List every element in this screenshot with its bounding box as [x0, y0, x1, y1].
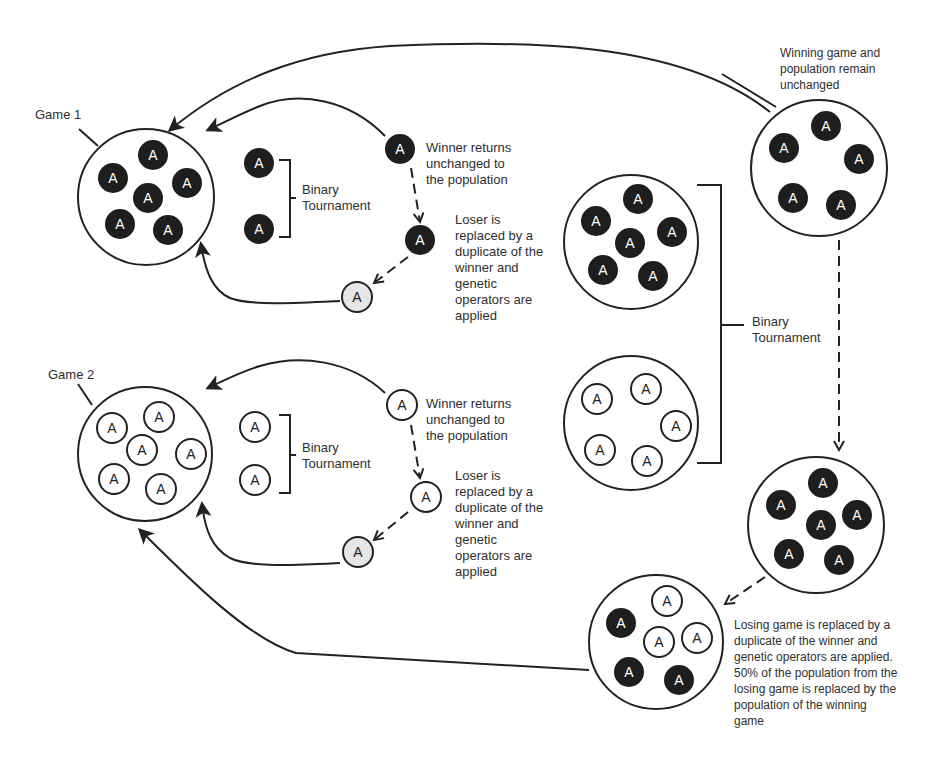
arrow-game1-winner-return: [208, 99, 385, 136]
game2-label: Game 2: [48, 367, 94, 383]
svg-text:A: A: [654, 634, 664, 650]
svg-text:A: A: [788, 190, 798, 206]
game2-tournament-label: Binary Tournament: [302, 440, 371, 472]
winning-game-note: Winning game and population remain uncha…: [780, 45, 880, 93]
arrow-game2-winner-return: [208, 360, 385, 393]
svg-text:A: A: [836, 197, 846, 213]
svg-text:A: A: [595, 442, 605, 458]
svg-text:A: A: [115, 216, 125, 232]
game1-label: Game 1: [35, 107, 81, 123]
losing-game-mixed-population: A A A A A A: [589, 575, 723, 709]
game1-tournament-label: Binary Tournament: [302, 182, 371, 214]
arrow-game2-loser-to-new: [374, 512, 408, 540]
svg-text:A: A: [352, 289, 362, 305]
game1-tournament-individuals: A A A A A: [244, 134, 435, 312]
svg-text:A: A: [854, 151, 864, 167]
arrow-game1-loser-to-new: [374, 257, 408, 283]
game1-label-pointer: [79, 129, 98, 146]
svg-text:A: A: [154, 409, 164, 425]
svg-text:A: A: [421, 489, 431, 505]
svg-text:A: A: [624, 664, 634, 680]
games-tournament-label: Binary Tournament: [752, 314, 821, 346]
svg-text:A: A: [143, 190, 153, 206]
svg-text:A: A: [148, 147, 158, 163]
game2-tournament-bracket: [279, 415, 296, 493]
arrow-winner-to-game1: [170, 44, 770, 130]
svg-text:A: A: [250, 419, 260, 435]
svg-text:A: A: [156, 481, 166, 497]
svg-text:A: A: [816, 517, 826, 533]
svg-text:A: A: [852, 507, 862, 523]
svg-text:A: A: [671, 418, 681, 434]
svg-text:A: A: [395, 141, 405, 157]
arrow-duplicate-to-mixed: [725, 577, 765, 604]
games-tournament-bracket: [697, 185, 744, 463]
svg-text:A: A: [692, 630, 702, 646]
svg-text:A: A: [648, 268, 658, 284]
winning-note-pointer: [722, 74, 776, 107]
arrow-game1-new-return: [201, 244, 340, 303]
svg-text:A: A: [137, 442, 147, 458]
svg-text:A: A: [641, 381, 651, 397]
tournament-game-a-population: A A A A A A: [564, 175, 698, 309]
svg-text:A: A: [250, 472, 260, 488]
svg-text:A: A: [254, 155, 264, 171]
svg-text:A: A: [776, 497, 786, 513]
tournament-game-b-population: A A A A A: [564, 356, 698, 490]
game1-winner-note: Winner returns unchanged to the populati…: [426, 140, 511, 188]
svg-text:A: A: [667, 224, 677, 240]
svg-text:A: A: [108, 170, 118, 186]
game2-label-pointer: [78, 384, 92, 405]
svg-text:A: A: [818, 475, 828, 491]
game1-tournament-bracket: [279, 160, 296, 237]
svg-text:A: A: [353, 544, 363, 560]
svg-text:A: A: [598, 262, 608, 278]
svg-text:A: A: [674, 672, 684, 688]
duplicated-winner-population: A A A A A A: [748, 457, 884, 593]
svg-text:A: A: [415, 232, 425, 248]
svg-text:A: A: [834, 552, 844, 568]
svg-text:A: A: [784, 546, 794, 562]
winning-game-population: A A A A A: [751, 100, 887, 236]
svg-text:A: A: [592, 391, 602, 407]
svg-text:A: A: [182, 175, 192, 191]
game2-population: A A A A A A: [78, 387, 212, 521]
svg-text:A: A: [107, 420, 117, 436]
svg-text:A: A: [779, 140, 789, 156]
svg-text:A: A: [642, 453, 652, 469]
svg-text:A: A: [186, 446, 196, 462]
arrow-game2-new-return: [202, 504, 340, 565]
svg-text:A: A: [163, 222, 173, 238]
svg-text:A: A: [662, 593, 672, 609]
game2-loser-note: Loser is replaced by a duplicate of the …: [455, 468, 543, 580]
svg-text:A: A: [397, 397, 407, 413]
game1-population: A A A A A A: [78, 129, 214, 265]
arrow-game2-winner-to-loser: [411, 425, 420, 478]
svg-text:A: A: [591, 213, 601, 229]
losing-game-note: Losing game is replaced by a duplicate o…: [734, 617, 897, 729]
game1-loser-note: Loser is replaced by a duplicate of the …: [455, 212, 543, 324]
svg-text:A: A: [821, 118, 831, 134]
svg-text:A: A: [633, 191, 643, 207]
svg-text:A: A: [625, 235, 635, 251]
arrow-game1-winner-to-loser: [411, 168, 420, 222]
svg-text:A: A: [109, 471, 119, 487]
game2-winner-note: Winner returns unchanged to the populati…: [426, 396, 511, 444]
game2-tournament-individuals: A A A A A: [240, 390, 441, 567]
svg-text:A: A: [616, 615, 626, 631]
svg-text:A: A: [254, 221, 264, 237]
